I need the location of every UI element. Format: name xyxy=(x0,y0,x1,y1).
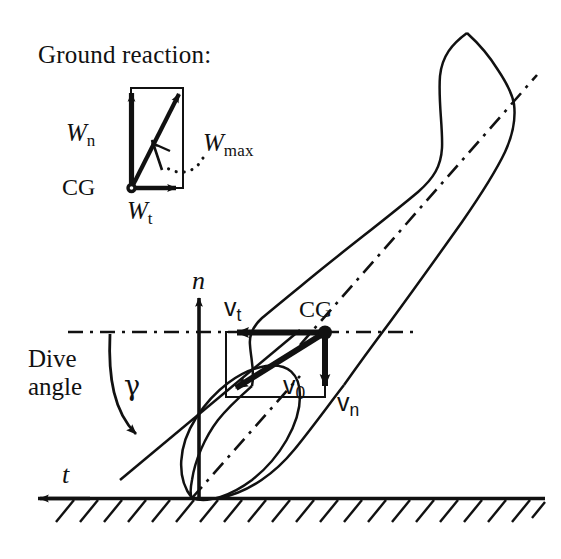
label-v0: v0 xyxy=(283,373,305,402)
ground xyxy=(38,499,545,523)
dive-angle-label: Dive angle xyxy=(28,345,82,401)
ground-hatching xyxy=(56,500,545,522)
label-vt-sub: t xyxy=(237,305,242,325)
axis-t-label: t xyxy=(62,462,69,488)
label-wt: Wt xyxy=(127,198,153,227)
dive-inclined-line xyxy=(120,330,300,480)
vector-wmax-arrow xyxy=(132,94,179,187)
label-v0-base: v xyxy=(283,371,296,399)
label-wt-base: W xyxy=(127,197,148,224)
label-wn-sub: n xyxy=(87,131,96,150)
velocity-parallelogram xyxy=(226,326,332,398)
label-wmax: Wmax xyxy=(203,130,254,159)
dive-angle-line1: Dive xyxy=(28,345,82,373)
dive-angle-gamma-symbol: γ xyxy=(124,372,140,399)
main-cg-label: CG xyxy=(299,297,332,321)
label-vt: vt xyxy=(224,295,241,324)
ground-reaction-inset xyxy=(126,88,203,193)
label-vt-base: v xyxy=(224,293,237,321)
label-wt-sub: t xyxy=(148,209,153,228)
inclined-body-centerline xyxy=(300,75,537,345)
inset-cg-dot-center xyxy=(130,186,134,190)
axis-n-label: n xyxy=(192,268,205,294)
label-vn-base: v xyxy=(337,388,350,416)
label-vn-sub: n xyxy=(350,400,360,420)
label-v0-sub: 0 xyxy=(296,383,306,403)
dive-angle-line2: angle xyxy=(28,373,82,401)
main-cg-dot xyxy=(318,326,332,340)
label-vn: vn xyxy=(337,390,359,419)
inset-cg-label: CG xyxy=(62,175,95,199)
inset-title: Ground reaction: xyxy=(38,42,211,67)
figure-root: Ground reaction: CG Wn Wt Wmax Dive angl… xyxy=(0,0,561,559)
label-wn-base: W xyxy=(66,119,87,146)
tire-ground-contour xyxy=(220,385,344,498)
label-wmax-sub: max xyxy=(224,141,254,160)
label-wn: Wn xyxy=(66,120,96,149)
label-wmax-base: W xyxy=(203,129,224,156)
reference-centerlines xyxy=(68,75,537,498)
landing-gear-outline xyxy=(181,33,514,500)
diagram-canvas xyxy=(0,0,561,559)
